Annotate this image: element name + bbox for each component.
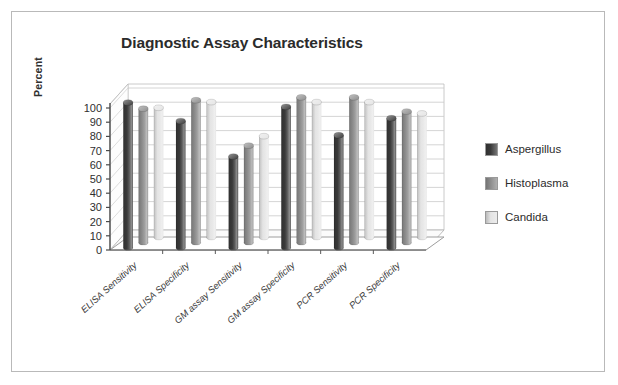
- bar: [139, 106, 149, 245]
- bar: [349, 94, 359, 245]
- bar: [154, 105, 164, 240]
- legend-item-label: Candida: [505, 211, 548, 223]
- legend-swatch-icon: [485, 211, 498, 224]
- bar: [387, 115, 397, 250]
- legend-item-aspergillus[interactable]: Aspergillus: [485, 132, 615, 166]
- y-tick-label: 0: [96, 244, 102, 256]
- bar: [334, 132, 344, 250]
- bar: [312, 99, 322, 240]
- bar-chart-svg: 1009080706050403020100ELISA SensitivityE…: [72, 86, 462, 376]
- bar: [123, 100, 133, 251]
- y-tick-label: 100: [84, 102, 102, 114]
- legend-item-histoplasma[interactable]: Histoplasma: [485, 166, 615, 200]
- legend-swatch-icon: [485, 143, 498, 156]
- bar: [417, 111, 427, 240]
- chart-frame: Diagnostic Assay Characteristics Percent…: [11, 11, 605, 372]
- y-tick-label: 80: [90, 130, 102, 142]
- x-axis-category-label: PCR Sensitivity: [294, 258, 350, 310]
- chart-figure: Diagnostic Assay Characteristics Percent…: [0, 0, 618, 385]
- legend-item-candida[interactable]: Candida: [485, 200, 615, 234]
- bar: [402, 109, 412, 245]
- bar: [191, 97, 201, 245]
- legend-swatch-icon: [485, 177, 498, 190]
- legend-item-label: Aspergillus: [505, 143, 561, 155]
- y-tick-label: 10: [90, 230, 102, 242]
- bar: [176, 118, 186, 250]
- y-tick-label: 50: [90, 173, 102, 185]
- y-axis-title: Percent: [32, 32, 52, 122]
- y-tick-label: 20: [90, 216, 102, 228]
- legend: AspergillusHistoplasmaCandida: [485, 132, 615, 234]
- bar: [244, 143, 254, 245]
- bar: [297, 94, 307, 245]
- bar: [259, 133, 269, 240]
- bar: [281, 104, 291, 250]
- bar: [229, 154, 239, 251]
- page-title: Diagnostic Assay Characteristics: [12, 34, 472, 52]
- y-tick-label: 90: [90, 116, 102, 128]
- plot-area: 1009080706050403020100ELISA SensitivityE…: [72, 86, 462, 266]
- y-tick-label: 30: [90, 201, 102, 213]
- bar: [207, 99, 217, 240]
- x-axis-category-label: PCR Specificity: [347, 258, 403, 310]
- y-tick-label: 40: [90, 187, 102, 199]
- legend-item-label: Histoplasma: [505, 177, 568, 189]
- y-tick-label: 60: [90, 159, 102, 171]
- y-tick-label: 70: [90, 145, 102, 157]
- bar: [365, 99, 375, 240]
